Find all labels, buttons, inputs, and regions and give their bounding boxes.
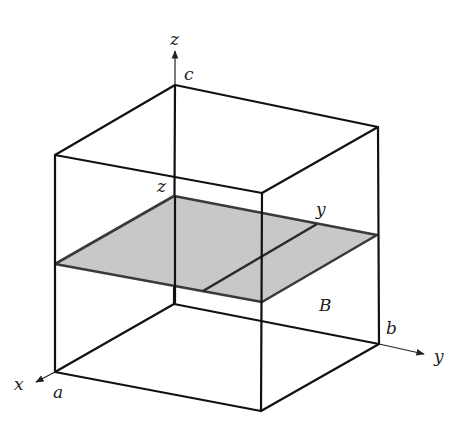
z-axis-label: z <box>169 29 180 49</box>
front-right-vertical-edge <box>261 193 262 411</box>
bottom-back-edge <box>174 304 379 344</box>
bottom-front-edge <box>55 372 261 411</box>
section-y-label: y <box>315 199 326 219</box>
region-b-label: B <box>318 295 332 315</box>
x-axis-label: x <box>14 374 24 394</box>
x-axis-arrow-icon <box>36 372 55 382</box>
c-extent-label: c <box>184 64 194 84</box>
box-bottom-front-edges <box>55 344 379 411</box>
b-extent-label: b <box>386 318 397 338</box>
back-right-vertical-edge <box>378 127 379 344</box>
cross-section-plane <box>55 196 377 302</box>
bottom-left-edge <box>55 304 174 372</box>
box-top-face <box>55 85 378 193</box>
bottom-right-edge <box>261 344 379 411</box>
section-z-label: z <box>156 176 167 196</box>
y-axis-arrow-icon <box>379 344 424 354</box>
box-diagram: z c y b x a z y B <box>0 0 465 436</box>
top-face-outline <box>55 85 378 193</box>
a-extent-label: a <box>53 382 63 402</box>
plane-region-b <box>55 196 377 302</box>
y-axis-label: y <box>433 346 444 366</box>
